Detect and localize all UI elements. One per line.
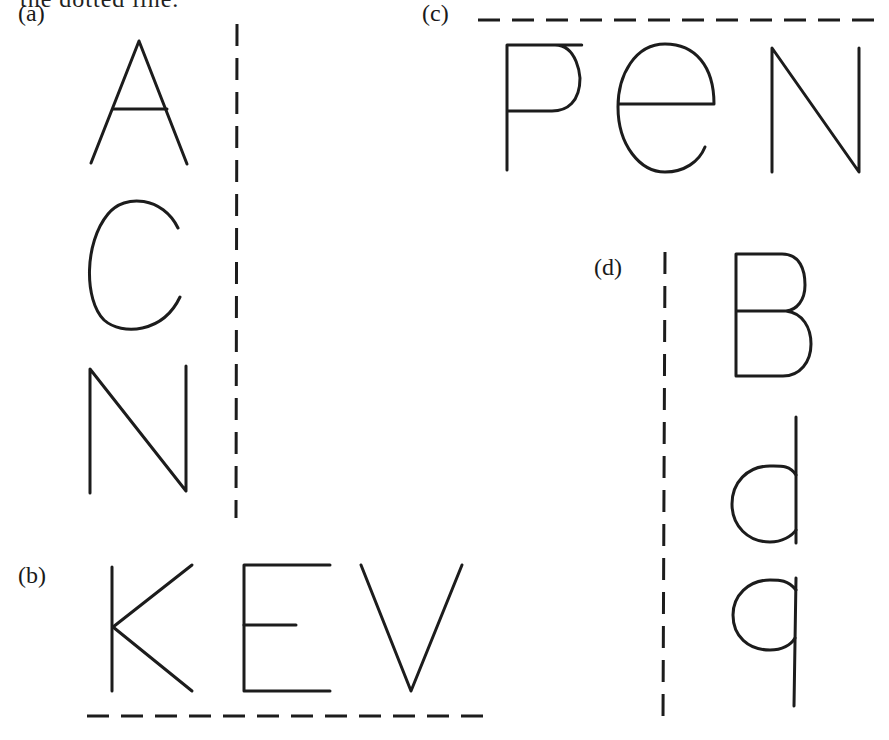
letter-e [244, 565, 330, 691]
vertical-axis-d [663, 252, 665, 720]
letter-symmetry-figure [0, 0, 889, 740]
panel-d [663, 252, 811, 720]
letter-d-lowercase [732, 417, 796, 543]
vertical-axis-a [236, 24, 237, 518]
letter-q-lowercase [733, 578, 796, 706]
panel-b [87, 565, 492, 716]
letter-p [507, 45, 582, 170]
panel-a [89, 24, 237, 518]
letter-n [90, 366, 186, 493]
letter-b [736, 254, 811, 376]
letter-n-panel-c [772, 48, 859, 172]
letter-k [112, 565, 192, 691]
letter-a [91, 41, 187, 164]
letter-v [361, 565, 462, 691]
letter-e-lowercase [618, 44, 714, 172]
panel-c [478, 20, 883, 172]
letter-c [89, 201, 180, 329]
